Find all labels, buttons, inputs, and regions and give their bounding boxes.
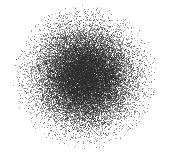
scatter-point-cloud: [0, 0, 169, 161]
scatter-plot-figure: [0, 0, 169, 161]
